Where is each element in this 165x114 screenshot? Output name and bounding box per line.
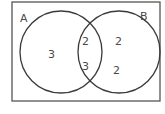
universal-set-frame	[12, 2, 160, 101]
set-a-label: A	[20, 12, 28, 25]
region-b-only-top: 2	[115, 35, 122, 48]
region-b-only-bottom: 2	[113, 64, 120, 77]
region-a-only: 3	[48, 48, 55, 61]
region-intersection-top: 2	[82, 35, 89, 48]
set-b-label: B	[140, 10, 148, 23]
set-b-circle	[78, 11, 160, 93]
venn-diagram: A B 3 2 3 2 2	[0, 0, 165, 114]
region-intersection-bottom: 3	[82, 60, 89, 73]
